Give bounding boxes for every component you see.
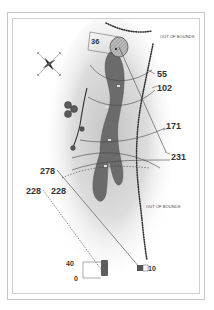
yardage-228-inner: 228 (51, 186, 66, 196)
tree-icon (71, 146, 76, 151)
tee-box-back (101, 260, 108, 276)
yardage-228-left: 228 (26, 186, 41, 196)
tree-icon (80, 127, 85, 132)
yardage-55: 55 (157, 69, 167, 79)
oob-label-right: OUT OF BOUNDS (146, 204, 181, 209)
compass-rose-icon (37, 52, 61, 76)
tee-label-0: 0 (74, 275, 78, 282)
hole-map: OUT OF BOUNDS OUT OF BOUNDS 36 55 102 17… (0, 0, 214, 310)
tee-label-40: 40 (66, 260, 74, 267)
yardage-278: 278 (40, 166, 55, 176)
oob-label-top: OUT OF BOUNDS (160, 34, 195, 39)
green-depth-label: 36 (91, 37, 99, 46)
tee-box-forward (137, 265, 143, 271)
yardage-102: 102 (157, 83, 172, 93)
pin (115, 48, 117, 50)
yardage-171: 171 (166, 121, 181, 131)
yardage-231: 231 (171, 152, 186, 162)
tee-label-10: 10 (148, 265, 156, 272)
